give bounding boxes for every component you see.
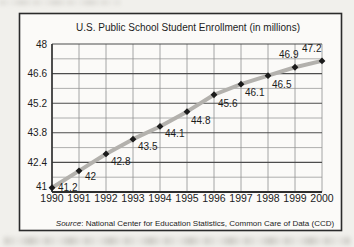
y-axis-tick-label: 48 [36, 39, 48, 50]
x-axis-tick-label: 1995 [175, 192, 199, 204]
y-axis-tick-label: 43.8 [28, 127, 48, 138]
data-point-label: 42.8 [111, 156, 131, 167]
data-point-label: 45.6 [218, 98, 238, 109]
enrollment-chart: U.S. Public School Student Enrollment (i… [0, 0, 354, 247]
data-point-label: 46.9 [279, 49, 299, 60]
data-point-label: 44.1 [165, 128, 185, 139]
chart-title: U.S. Public School Student Enrollment (i… [76, 22, 300, 33]
x-axis-tick-label: 1991 [67, 192, 91, 204]
x-axis-tick-label: 1990 [40, 192, 64, 204]
x-axis-tick-label: 1997 [229, 192, 253, 204]
source-caption: Source: National Center for Education St… [56, 219, 335, 228]
data-point-label: 42 [85, 171, 97, 182]
data-point-label: 46.5 [272, 79, 292, 90]
x-axis-tick-label: 1992 [94, 192, 118, 204]
x-axis-tick-label: 1993 [121, 192, 145, 204]
x-axis-tick-label: 2000 [310, 192, 334, 204]
source-label: Source [56, 219, 82, 228]
x-axis-tick-label: 1994 [148, 192, 172, 204]
source-text: : National Center for Education Statisti… [81, 219, 334, 228]
y-axis-tick-label: 41 [36, 181, 48, 192]
y-axis-tick-label: 45.2 [28, 98, 48, 109]
data-point-label: 47.2 [302, 43, 322, 54]
data-point-label: 44.8 [191, 115, 211, 126]
scanned-page: U.S. Public School Student Enrollment (i… [0, 0, 354, 247]
x-axis-tick-label: 1998 [256, 192, 280, 204]
data-point-label: 43.5 [138, 141, 158, 152]
x-axis-tick-label: 1999 [283, 192, 307, 204]
x-axis-tick-label: 1996 [202, 192, 226, 204]
y-axis-tick-label: 42.4 [28, 157, 48, 168]
data-point-label: 46.1 [245, 87, 265, 98]
y-axis-tick-label: 46.6 [28, 68, 48, 79]
